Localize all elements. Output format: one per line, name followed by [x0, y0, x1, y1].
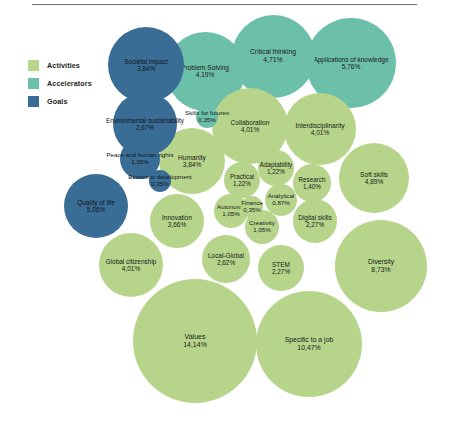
bubble-digital-skills[interactable]: Digital skills2,27% [293, 199, 337, 243]
bubble-local-global[interactable]: Local-Global2,62% [202, 235, 250, 283]
bubble-analytical[interactable]: Analytical0,87% [265, 184, 297, 216]
bubble-value: 0,35% [198, 117, 216, 124]
bubble-research[interactable]: Research1,40% [293, 164, 331, 202]
legend-swatch-activities [28, 60, 39, 71]
bubble-value: 0,35% [151, 181, 168, 188]
bubble-value: 5,76% [342, 63, 360, 70]
bubble-label: Innovation [162, 214, 192, 221]
bubble-values[interactable]: Values14,14% [133, 279, 257, 403]
bubble-value: 1,22% [267, 168, 285, 175]
bubble-value: 1,05% [253, 227, 271, 234]
bubble-quality-of-life[interactable]: Quality of life5,06% [64, 174, 128, 238]
bubble-label: Applications of knowledge [313, 56, 388, 63]
bubble-label: Global citizenship [106, 258, 157, 265]
legend-label: Activities [47, 61, 80, 70]
bubble-label: Adaptability [260, 161, 293, 168]
bubble-value: 4,01% [311, 129, 330, 136]
legend-label: Accelerators [47, 79, 92, 88]
bubble-value: 4,01% [241, 126, 260, 133]
bubble-value: 4,71% [263, 56, 282, 64]
bubble-label: Environmental sustainability [106, 117, 184, 124]
bubble-label: Problem Solving [181, 64, 229, 71]
bubble-value: 1,05% [131, 159, 149, 166]
bubble-diversity[interactable]: Diversity8,73% [335, 220, 427, 312]
bubble-value: 0,35% [243, 207, 260, 214]
bubble-value: 1,05% [222, 211, 240, 218]
bubble-value: 2,27% [306, 221, 324, 228]
bubble-label: Diversity [368, 258, 394, 266]
bubble-value: 3,66% [168, 221, 186, 228]
bubble-value: 10,47% [297, 344, 320, 352]
bubble-value: 2,62% [217, 259, 235, 266]
bubble-label: Quality of life [77, 199, 115, 206]
bubble-label: Practical [230, 173, 254, 180]
bubble-value: 4,89% [365, 178, 384, 185]
bubble-economic-development[interactable]: Economic development0,35% [149, 170, 171, 192]
bubble-skills-for-futures[interactable]: Skills for futures0,35% [196, 106, 218, 128]
bubble-label: Research [299, 176, 326, 183]
bubble-label: Interdisciplinarity [295, 122, 344, 129]
bubble-adaptability[interactable]: Adaptability1,22% [258, 150, 294, 186]
bubble-value: 3,84% [183, 161, 202, 168]
bubble-interdisciplinarity[interactable]: Interdisciplinarity4,01% [284, 93, 356, 165]
bubble-value: 4,01% [122, 265, 140, 272]
legend-swatch-accelerators [28, 78, 39, 89]
bubble-finance[interactable]: Finance0,35% [241, 196, 263, 218]
bubble-value: 5,06% [87, 206, 105, 213]
bubble-value: 2,27% [272, 268, 290, 275]
bubble-value: 4,19% [196, 71, 215, 78]
legend-label: Goals [47, 97, 67, 106]
bubble-specific-to-a-job[interactable]: Specific to a job10,47% [256, 291, 362, 397]
bubble-value: 1,40% [303, 183, 321, 190]
bubble-label: Local-Global [208, 252, 244, 259]
bubble-value: 2,67% [136, 124, 154, 131]
bubble-label: Values [185, 333, 206, 341]
legend-swatch-goals [28, 96, 39, 107]
bubble-label: Humanity [178, 154, 206, 161]
bubble-critical-thinking[interactable]: Critical thinking4,71% [232, 15, 315, 98]
bubble-innovation[interactable]: Innovation3,66% [150, 194, 204, 248]
bubble-soft-skills[interactable]: Soft skills4,89% [339, 143, 409, 213]
bubble-value: 8,73% [371, 266, 390, 274]
bubble-value: 0,87% [272, 200, 290, 207]
bubble-label: Soft skills [360, 171, 388, 178]
bubble-value: 14,14% [183, 341, 207, 349]
bubble-label: Collaboration [231, 119, 270, 126]
bubble-practical[interactable]: Practical1,22% [224, 162, 260, 198]
bubble-label: Digital skills [298, 214, 331, 221]
bubble-label: STEM [272, 261, 290, 268]
bubble-value: 3,84% [137, 65, 155, 72]
bubble-global-citizenship[interactable]: Global citizenship4,01% [99, 233, 163, 297]
bubble-stem[interactable]: STEM2,27% [258, 245, 304, 291]
bubble-label: Critical thinking [250, 48, 296, 56]
bubble-label: Specific to a job [285, 336, 334, 344]
bubble-value: 1,22% [233, 180, 251, 187]
bubble-label: Societal impact [124, 58, 167, 65]
